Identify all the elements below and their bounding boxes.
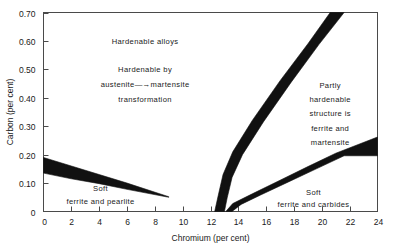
x-axis-title: Chromium (per cent) <box>172 233 250 243</box>
soft-ferrite-pearlite-line-1: Soft <box>93 184 108 193</box>
x-tick-label-9: 18 <box>290 217 300 227</box>
y-tick-label-4: 0.40 <box>19 94 36 104</box>
y-tick-label-3: 0.30 <box>19 122 36 132</box>
x-tick-label-1: 2 <box>69 217 74 227</box>
y-tick-label-1: 0.10 <box>19 179 36 189</box>
soft-ferrite-pearlite-line-2: ferrite and pearlite <box>66 197 134 206</box>
y-tick-label-5: 0.50 <box>19 65 36 75</box>
y-tick-label-0: 0 <box>31 208 36 218</box>
x-tick-label-11: 22 <box>346 217 356 227</box>
chromium-carbon-phase-diagram: 00.100.200.300.400.500.600.7002468101214… <box>0 0 396 250</box>
x-tick-label-10: 20 <box>318 217 328 227</box>
x-tick-label-5: 10 <box>179 217 189 227</box>
hardenable-by-label: Hardenable by <box>118 65 172 74</box>
partly-hardenable-line-4: ferrite and <box>311 124 349 133</box>
phase-diagram-figure: 00.100.200.300.400.500.600.7002468101214… <box>0 0 396 250</box>
x-tick-label-8: 16 <box>262 217 272 227</box>
partly-hardenable-line-3: structure is <box>310 109 351 118</box>
partly-hardenable-line-5: martensite <box>311 138 350 147</box>
y-tick-label-7: 0.70 <box>19 9 36 19</box>
x-tick-label-3: 6 <box>125 217 130 227</box>
soft-ferrite-carbides-line-1: Soft <box>306 188 321 197</box>
x-tick-label-7: 14 <box>234 217 244 227</box>
hardenable-alloys-label: Hardenable alloys <box>112 37 179 46</box>
y-axis-title: Carbon (per cent) <box>5 79 15 146</box>
x-tick-label-4: 8 <box>153 217 158 227</box>
transformation-label: transformation <box>118 95 171 104</box>
austenite-martensite-label: austenite—→martensite <box>101 80 190 89</box>
partly-hardenable-line-1: Partly <box>319 81 341 90</box>
y-tick-label-6: 0.60 <box>19 37 36 47</box>
y-tick-label-2: 0.20 <box>19 151 36 161</box>
partly-hardenable-line-2: hardenable <box>309 95 351 104</box>
soft-ferrite-carbides-line-2: ferrite and carbides <box>277 200 349 209</box>
x-tick-label-6: 12 <box>207 217 217 227</box>
x-tick-label-12: 24 <box>374 217 384 227</box>
x-tick-label-2: 4 <box>97 217 102 227</box>
x-tick-label-0: 0 <box>42 217 47 227</box>
